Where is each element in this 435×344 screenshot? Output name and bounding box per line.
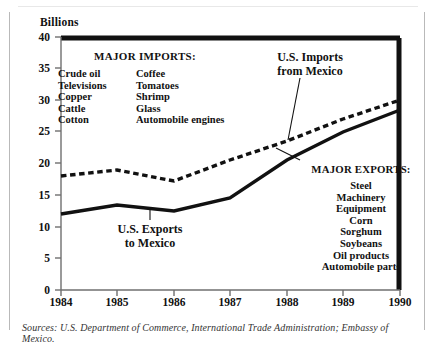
x-tick-label-1987: 1987 <box>200 296 260 308</box>
imports-series-label-line1: U.S. Imports <box>248 50 372 64</box>
export-item: Soybeans <box>296 238 426 250</box>
imports-label-leader-line <box>288 78 300 140</box>
export-item: Sorghum <box>296 226 426 238</box>
y-tick-label-40: 40 <box>24 31 50 43</box>
x-tick-label-1984: 1984 <box>31 296 91 308</box>
y-tick-label-20: 20 <box>24 157 50 169</box>
import-item: Coffee <box>136 68 236 80</box>
export-item: Machinery <box>296 192 426 204</box>
imports-series-label-line2: from Mexico <box>248 64 372 78</box>
import-item: Shrimp <box>136 91 236 103</box>
y-tick-label-0: 0 <box>24 284 50 296</box>
y-tick-label-15: 15 <box>24 189 50 201</box>
x-tick-label-1985: 1985 <box>87 296 147 308</box>
y-tick-label-35: 35 <box>24 62 50 74</box>
import-item: Televisions <box>58 80 136 92</box>
source-caption: Sources: U.S. Department of Commerce, In… <box>22 322 422 344</box>
x-tick-label-1990: 1990 <box>370 296 430 308</box>
exports-series-label-line1: U.S. Exports <box>84 222 216 236</box>
export-item: Oil products <box>296 250 426 262</box>
imports-series-label: U.S. Imports from Mexico <box>248 50 372 78</box>
major-imports-lists: Crude oil Televisions Copper Cattle Cott… <box>58 68 238 126</box>
major-imports-column-2: Coffee Tomatoes Shrimp Glass Automobile … <box>136 68 236 126</box>
import-item: Crude oil <box>58 68 136 80</box>
exports-series-label: U.S. Exports to Mexico <box>84 222 216 250</box>
export-item: Steel <box>296 180 426 192</box>
major-exports-heading: MAJOR EXPORTS: <box>300 163 422 175</box>
import-item: Glass <box>136 103 236 115</box>
x-tick-label-1989: 1989 <box>313 296 373 308</box>
import-item: Automobile engines <box>136 114 236 126</box>
export-item: Equipment <box>296 203 426 215</box>
x-tick-label-1986: 1986 <box>144 296 204 308</box>
import-item: Copper <box>58 91 136 103</box>
export-item: Corn <box>296 215 426 227</box>
y-tick-label-5: 5 <box>24 252 50 264</box>
import-item: Cotton <box>58 114 136 126</box>
major-imports-heading: MAJOR IMPORTS: <box>60 50 230 62</box>
exports-series-label-line2: to Mexico <box>84 236 216 250</box>
x-tick-label-1988: 1988 <box>257 296 317 308</box>
y-tick-label-30: 30 <box>24 94 50 106</box>
y-tick-label-10: 10 <box>24 221 50 233</box>
major-exports-list: Steel Machinery Equipment Corn Sorghum S… <box>296 180 426 273</box>
import-item: Cattle <box>58 103 136 115</box>
y-tick-label-25: 25 <box>24 125 50 137</box>
export-item: Automobile parts <box>296 261 426 273</box>
major-imports-column-1: Crude oil Televisions Copper Cattle Cott… <box>58 68 136 126</box>
import-item: Tomatoes <box>136 80 236 92</box>
